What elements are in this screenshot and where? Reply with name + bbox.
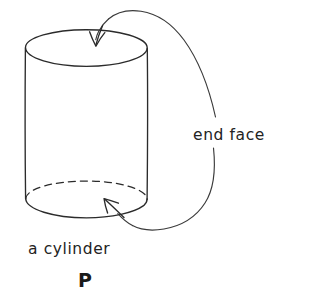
figure-canvas: end face a cylinder P (0, 0, 314, 300)
bottom-leader-tail (118, 214, 133, 226)
top-end-face-leader (90, 11, 216, 117)
label-panel-letter: P (78, 269, 92, 291)
label-end-face: end face (193, 126, 265, 144)
cylinder-bottom-right-stub (144, 199, 147, 205)
cylinder-shape (25, 30, 147, 218)
cylinder-diagram-svg: end face a cylinder P (0, 0, 314, 300)
label-a-cylinder: a cylinder (28, 240, 110, 258)
bottom-end-face-leader (104, 148, 214, 230)
cylinder-bottom-visible-arc (26, 199, 144, 218)
cylinder-bottom-hidden-arc (26, 181, 147, 199)
cylinder-top-ellipse (26, 30, 148, 67)
top-leader-curve (109, 11, 216, 117)
bottom-leader-curve (133, 148, 215, 230)
